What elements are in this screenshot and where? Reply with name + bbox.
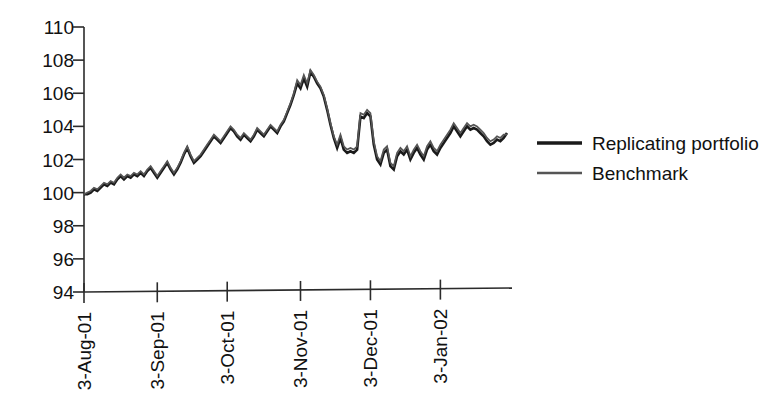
y-axis-tick-labels: 949698100102104106108110 <box>42 17 74 303</box>
x-tick-label: 3-Oct-01 <box>217 311 238 385</box>
y-tick-label: 108 <box>42 50 74 71</box>
x-tick-label: 3-Aug-01 <box>74 312 95 390</box>
legend-label: Replicating portfolio <box>592 133 759 154</box>
data-series-group <box>84 70 507 194</box>
x-tick-label: 3-Dec-01 <box>360 309 381 387</box>
chart-legend: Replicating portfolioBenchmark <box>537 133 759 184</box>
legend-label: Benchmark <box>592 163 689 184</box>
y-tick-label: 104 <box>42 116 74 137</box>
series-line <box>84 70 507 194</box>
x-tick-label: 3-Nov-01 <box>290 310 311 388</box>
y-tick-label: 98 <box>53 216 74 237</box>
series-line <box>84 72 507 195</box>
y-tick-label: 96 <box>53 249 74 270</box>
line-chart: 949698100102104106108110 3-Aug-013-Sep-0… <box>0 0 783 417</box>
y-tick-label: 106 <box>42 83 74 104</box>
y-axis-tick-marks <box>73 27 84 292</box>
y-tick-label: 110 <box>44 17 74 38</box>
x-tick-label: 3-Jan-02 <box>430 309 451 384</box>
x-axis-tick-labels: 3-Aug-013-Sep-013-Oct-013-Nov-013-Dec-01… <box>74 309 451 391</box>
x-axis-line <box>84 288 512 292</box>
y-tick-label: 94 <box>53 282 75 303</box>
x-tick-label: 3-Sep-01 <box>147 311 168 389</box>
chart-container: 949698100102104106108110 3-Aug-013-Sep-0… <box>0 0 783 417</box>
y-tick-label: 102 <box>42 150 74 171</box>
y-tick-label: 100 <box>42 183 74 204</box>
